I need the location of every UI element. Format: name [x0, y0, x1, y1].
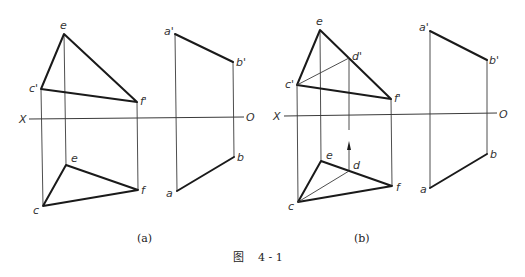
subfigure-caption-b: (b) [354, 232, 370, 245]
xo-axis-line [29, 117, 244, 119]
subfigure-caption-a: (a) [137, 232, 152, 245]
label-a-prime: a' [419, 21, 429, 34]
label-c-prime: c' [285, 78, 294, 91]
line-ab-top [430, 154, 487, 188]
projection-line-f [391, 99, 392, 186]
label-d-prime: d' [352, 50, 362, 63]
subfigure-b: X O e c' f' d' a' b' e c f d a b [272, 15, 508, 245]
projection-line-f [137, 102, 138, 190]
projection-line-a [175, 34, 177, 191]
triangle-top-view [298, 161, 392, 202]
projection-line-c [41, 89, 43, 206]
projection-drawing: X O e c' f' a' b' e c f a b (a) X O [0, 0, 525, 277]
label-d: d [353, 159, 361, 172]
label-a: a [166, 187, 173, 200]
triangle-front-view [41, 34, 137, 102]
label-f-prime: f' [140, 95, 147, 108]
figure-caption-label: 图 [233, 251, 244, 264]
label-c-prime: c' [29, 82, 38, 95]
subfigure-a: X O e c' f' a' b' e c f a b (a) [18, 19, 255, 245]
label-f: f [141, 184, 147, 197]
label-c: c [288, 200, 294, 213]
line-ab-front [430, 31, 487, 60]
arrow-up-icon [347, 141, 351, 150]
projection-line-e [320, 30, 321, 161]
label-f: f [396, 181, 402, 194]
line-c-prime-d-prime [297, 58, 349, 85]
xo-axis-line [284, 113, 497, 116]
figure-caption-number: 4 - 1 [258, 251, 283, 264]
axis-label-x: X [272, 110, 281, 123]
label-a: a [420, 183, 427, 196]
label-e-prime: e [316, 15, 323, 28]
label-e-prime: e [60, 19, 67, 32]
label-b-prime: b' [236, 56, 246, 69]
line-ab-front [175, 34, 233, 62]
label-e: e [71, 152, 78, 165]
axis-label-o: O [246, 111, 255, 124]
axis-label-o: O [499, 108, 508, 121]
triangle-top-view [43, 165, 138, 206]
triangle-front-view [297, 30, 391, 99]
line-ab-top [177, 157, 234, 191]
label-c: c [33, 204, 39, 217]
projection-line-c [297, 85, 298, 202]
label-e: e [326, 149, 333, 162]
label-b: b [490, 148, 497, 161]
label-b: b [237, 151, 244, 164]
label-a-prime: a' [164, 25, 174, 38]
projection-line-e [64, 34, 66, 165]
label-f-prime: f' [394, 92, 401, 105]
axis-label-x: X [18, 113, 27, 126]
label-b-prime: b' [489, 54, 499, 67]
projection-line-b [233, 62, 234, 157]
